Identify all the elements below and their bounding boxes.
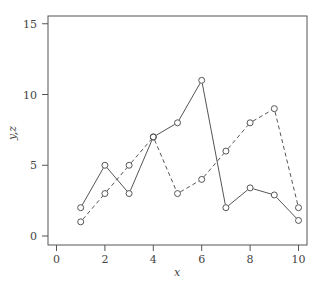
plot-frame xyxy=(48,16,307,245)
series-line xyxy=(131,139,151,162)
y-axis-label: y,z xyxy=(6,126,19,141)
data-point-marker xyxy=(175,191,181,197)
series-line xyxy=(275,112,298,205)
series-line xyxy=(179,83,200,120)
data-point-marker xyxy=(223,148,229,154)
data-point-marker xyxy=(199,77,205,83)
x-tick-label: 4 xyxy=(150,253,157,266)
series-line xyxy=(204,154,224,177)
series-line xyxy=(130,140,152,191)
x-axis-label: x xyxy=(174,266,181,279)
series-line xyxy=(228,190,247,206)
data-point-marker xyxy=(296,205,302,211)
series-layer xyxy=(78,77,302,225)
x-tick-label: 10 xyxy=(292,253,306,266)
data-point-marker xyxy=(271,106,277,112)
data-point-marker xyxy=(271,192,277,198)
data-point-marker xyxy=(78,219,84,225)
data-point-marker xyxy=(150,134,156,140)
x-tick-label: 8 xyxy=(247,253,254,266)
data-point-marker xyxy=(296,217,302,223)
series-line xyxy=(277,197,297,218)
data-point-marker xyxy=(126,191,132,197)
y-tick-label: 5 xyxy=(30,159,37,172)
y-tick-label: 15 xyxy=(23,18,37,31)
x-tick-label: 6 xyxy=(198,253,205,266)
series-line xyxy=(180,181,199,192)
data-point-marker xyxy=(223,205,229,211)
data-point-marker xyxy=(199,176,205,182)
y-tick-label: 10 xyxy=(23,89,37,102)
series-line xyxy=(202,84,225,205)
series-line xyxy=(253,110,272,121)
series-line xyxy=(228,125,248,148)
series-line xyxy=(82,168,103,205)
y-tick-label: 0 xyxy=(30,230,37,243)
series-line xyxy=(253,189,271,194)
series-y xyxy=(78,77,302,223)
data-point-marker xyxy=(102,162,108,168)
data-point-marker xyxy=(175,120,181,126)
data-point-marker xyxy=(78,205,84,211)
x-axis: 0246810 xyxy=(53,245,306,266)
line-chart: 051015 0246810 x y,z xyxy=(0,0,323,292)
data-point-marker xyxy=(247,185,253,191)
data-point-marker xyxy=(247,120,253,126)
series-line xyxy=(156,124,175,135)
data-point-marker xyxy=(126,162,132,168)
x-tick-label: 2 xyxy=(101,253,108,266)
data-point-marker xyxy=(102,191,108,197)
series-line xyxy=(155,140,177,191)
y-axis: 051015 xyxy=(23,18,48,243)
series-z xyxy=(78,106,302,225)
x-tick-label: 0 xyxy=(53,253,60,266)
